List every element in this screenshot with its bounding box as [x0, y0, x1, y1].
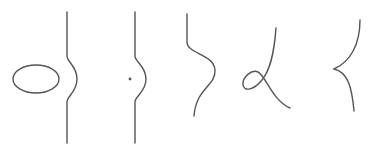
point-dot	[129, 78, 132, 81]
diagram-canvas	[0, 0, 371, 156]
background	[0, 0, 371, 156]
